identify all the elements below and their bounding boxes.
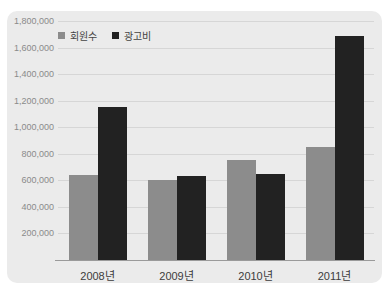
gridline: [58, 101, 374, 102]
chart-card: 1,800,0001,600,0001,400,0001,200,0001,00…: [7, 11, 382, 283]
y-axis-tick-label: 600,000: [7, 175, 54, 185]
gridline: [58, 48, 374, 49]
legend-label-adcost: 광고비: [124, 28, 151, 43]
legend-label-members: 회원수: [70, 28, 97, 43]
y-axis-tick-label: 1,000,000: [7, 122, 54, 132]
y-axis-tick-label: 200,000: [7, 228, 54, 238]
x-axis-line: [55, 260, 375, 261]
x-axis-label: 2011년: [318, 267, 352, 283]
bar-회원수-2009년: [148, 180, 177, 260]
bar-회원수-2008년: [69, 175, 98, 260]
x-axis-label: 2009년: [159, 267, 193, 283]
legend-item-adcost: 광고비: [112, 28, 151, 43]
bar-광고비-2009년: [177, 176, 206, 260]
legend-swatch-members-icon: [58, 32, 65, 39]
plot-area: 1,800,0001,600,0001,400,0001,200,0001,00…: [7, 11, 382, 283]
bar-회원수-2011년: [306, 147, 335, 260]
legend-item-members: 회원수: [58, 28, 97, 43]
bar-회원수-2010년: [227, 160, 256, 260]
legend-swatch-adcost-icon: [112, 32, 119, 39]
y-axis-tick-label: 1,600,000: [7, 43, 54, 53]
gridline: [58, 74, 374, 75]
legend: 회원수 광고비: [58, 28, 151, 43]
bar-광고비-2010년: [256, 174, 285, 260]
gridline: [58, 21, 374, 22]
y-axis-tick-label: 1,400,000: [7, 69, 54, 79]
y-axis-tick-label: 1,200,000: [7, 96, 54, 106]
y-axis-tick-label: 800,000: [7, 149, 54, 159]
bar-광고비-2011년: [335, 36, 364, 260]
x-axis-label: 2010년: [238, 267, 272, 283]
y-axis-tick-label: 1,800,000: [7, 16, 54, 26]
x-axis-label: 2008년: [80, 267, 114, 283]
y-axis-tick-label: 400,000: [7, 202, 54, 212]
bar-광고비-2008년: [98, 107, 127, 260]
